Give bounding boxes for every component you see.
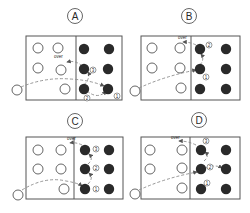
filled-circle: [195, 84, 205, 94]
filled-circle: [104, 44, 114, 54]
open-circle: [145, 164, 155, 174]
over-label: over: [67, 136, 76, 141]
open-circle: [56, 164, 66, 174]
filled-circle: [79, 44, 89, 54]
open-circle: [59, 184, 69, 194]
dashed-arrow-path: [200, 54, 203, 65]
panel-label: A: [68, 9, 83, 24]
open-circle: [60, 84, 70, 94]
panel-label-text: C: [71, 116, 78, 127]
open-circle: [33, 43, 43, 53]
panels-layer: Aover321Bover21Cover321Dover321: [12, 9, 240, 201]
filled-circle: [221, 184, 231, 194]
filled-circle: [104, 145, 114, 155]
step-marker: 2: [84, 95, 90, 101]
filled-circle: [196, 164, 206, 174]
filled-circle: [80, 164, 90, 174]
dashed-arrow-path: [183, 42, 196, 45]
panel-label: C: [68, 114, 83, 129]
dashed-arrow-path: [70, 143, 82, 145]
step-marker: 3: [93, 146, 99, 152]
open-circle: [177, 163, 187, 173]
outside-open-circle: [12, 85, 22, 95]
over-label: over: [178, 35, 187, 40]
filled-circle: [221, 64, 231, 74]
open-circle: [176, 83, 186, 93]
filled-circle: [221, 84, 231, 94]
panel-label-text: A: [72, 11, 79, 22]
step-marker: 3: [90, 67, 96, 73]
filled-circle: [104, 184, 114, 194]
panel-label: B: [182, 9, 197, 24]
open-circle: [145, 145, 155, 155]
open-circle: [175, 63, 185, 73]
open-circle: [177, 183, 187, 193]
filled-circle: [104, 164, 114, 174]
panel-d: Dover321: [130, 113, 240, 200]
step-marker: 2: [207, 164, 213, 170]
open-circle: [53, 43, 63, 53]
step-marker: 1: [204, 180, 210, 186]
open-circle: [33, 63, 43, 73]
outside-open-circle: [130, 86, 140, 96]
open-circle: [33, 145, 43, 155]
step-marker: 2: [206, 42, 212, 48]
dashed-arrow-path: [139, 70, 196, 88]
over-label: over: [171, 135, 180, 140]
step-marker: 1: [114, 93, 120, 99]
filled-circle: [80, 184, 90, 194]
filled-circle: [103, 84, 113, 94]
panel-a: Aover321: [12, 9, 122, 102]
step-marker: 1: [203, 74, 209, 80]
step-marker: 1: [93, 186, 99, 192]
open-circle: [33, 164, 43, 174]
diagram-svg: Aover321Bover21Cover321Dover321: [0, 0, 250, 213]
dashed-arrow-path: [22, 180, 82, 190]
over-label: over: [54, 54, 63, 59]
open-circle: [177, 145, 187, 155]
filled-circle: [221, 44, 231, 54]
dashed-arrow-path: [88, 173, 91, 184]
open-circle: [147, 43, 157, 53]
filled-circle: [79, 64, 89, 74]
filled-circle: [79, 84, 89, 94]
filled-circle: [103, 64, 113, 74]
open-circle: [56, 145, 66, 155]
dashed-arrow-path: [87, 91, 106, 96]
open-circle: [175, 43, 185, 53]
filled-circle: [221, 145, 231, 155]
outside-open-circle: [13, 190, 23, 200]
outside-open-circle: [130, 189, 140, 199]
step-marker: 3: [203, 138, 209, 144]
panel-c: Cover321: [13, 114, 123, 201]
filled-circle: [195, 64, 205, 74]
dashed-arrow-path: [179, 141, 196, 145]
panel-label-text: D: [195, 115, 202, 126]
step-marker: 2: [93, 165, 99, 171]
filled-circle: [221, 164, 231, 174]
filled-circle: [80, 145, 90, 155]
panel-b: Bover21: [130, 9, 240, 101]
filled-circle: [195, 44, 205, 54]
diagram-stage: Aover321Bover21Cover321Dover321: [0, 0, 250, 213]
dashed-arrow-path: [139, 172, 197, 190]
dashed-arrow-path: [67, 62, 82, 67]
panel-label: D: [192, 113, 207, 128]
open-circle: [56, 65, 66, 75]
filled-circle: [196, 184, 206, 194]
dashed-arrow-path: [88, 154, 91, 164]
filled-circle: [196, 145, 206, 155]
open-circle: [147, 63, 157, 73]
panel-label-text: B: [186, 11, 193, 22]
